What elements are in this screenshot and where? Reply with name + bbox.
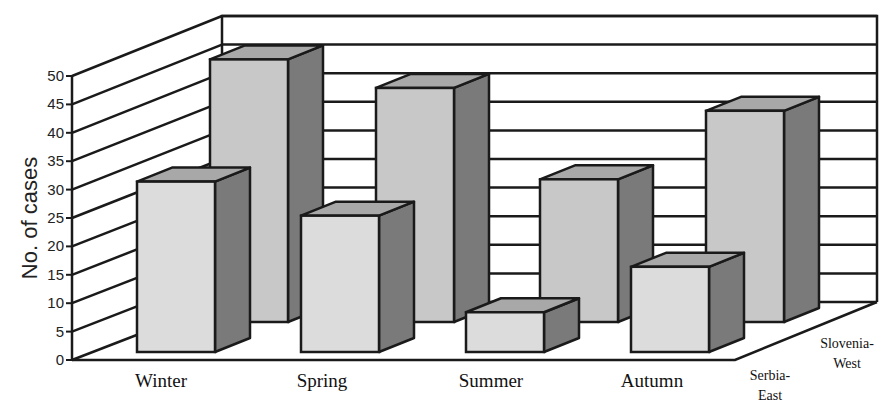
series-label-slovenia-west: Slovenia- West (812, 334, 882, 374)
category-label-winter: Winter (135, 370, 187, 392)
side-gridline (72, 73, 222, 133)
side-gridline (72, 102, 222, 161)
bar-front-face (301, 216, 379, 352)
y-tick-label: 50 (24, 67, 64, 84)
y-tick-label: 5 (24, 323, 64, 340)
bar-side-face (454, 74, 489, 322)
y-tick-label: 40 (24, 124, 64, 141)
bar-side-face (379, 202, 414, 352)
category-label-autumn: Autumn (621, 370, 683, 392)
y-tick-label: 15 (24, 266, 64, 283)
bar-chart-3d (0, 0, 895, 411)
side-gridline (72, 16, 222, 76)
bar-front-face (631, 267, 709, 352)
bar-side-face (709, 253, 744, 352)
y-tick-label: 25 (24, 209, 64, 226)
y-tick-label: 45 (24, 95, 64, 112)
y-axis-title: No. of cases (0, 0, 60, 411)
side-gridline (72, 45, 222, 105)
y-tick-label: 0 (24, 351, 64, 368)
bar-spring-serbia-east (301, 202, 414, 352)
category-label-spring: Spring (297, 370, 348, 392)
category-label-summer: Summer (459, 370, 523, 392)
bar-front-face (466, 312, 544, 352)
bar-summer-serbia-east (466, 298, 579, 352)
y-tick-label: 20 (24, 237, 64, 254)
y-tick-label: 30 (24, 181, 64, 198)
series-label-serbia-east: Serbia- East (740, 366, 800, 406)
bar-winter-serbia-east (137, 168, 250, 352)
y-tick-label: 10 (24, 294, 64, 311)
bar-side-face (784, 97, 819, 322)
bar-autumn-serbia-east (631, 253, 744, 352)
bar-front-face (137, 182, 215, 352)
bar-side-face (215, 168, 250, 352)
y-tick-label: 35 (24, 152, 64, 169)
